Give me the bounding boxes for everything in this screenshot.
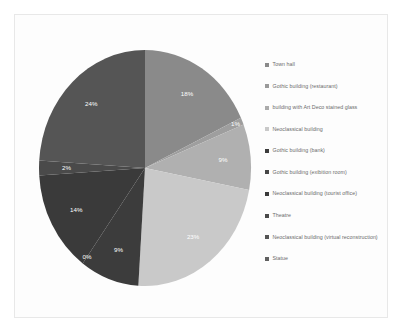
legend-item[interactable]: Gothic building (restaurant) xyxy=(265,83,385,90)
legend-item[interactable]: Gothic building (bank) xyxy=(265,147,385,154)
legend-swatch-icon xyxy=(265,235,269,239)
legend-item[interactable]: Neoclassical building (tourist office) xyxy=(265,190,385,197)
legend-item[interactable]: Gothic building (exibition room) xyxy=(265,169,385,176)
pie-slice-percent-label: 0% xyxy=(83,253,92,260)
legend-item-label: Gothic building (exibition room) xyxy=(273,169,347,176)
legend-swatch-icon xyxy=(265,106,269,110)
pie-slice-percent-label: 2% xyxy=(62,164,71,171)
pie-slice-percent-label: 18% xyxy=(181,90,194,97)
pie-slice-percent-label: 24% xyxy=(85,100,98,107)
pie-slice-percent-label: 1% xyxy=(231,120,240,127)
chart-figure-frame: 18%1%9%23%9%0%14%2%24% Town hallGothic b… xyxy=(14,14,388,318)
legend-item-label: Town hall xyxy=(273,61,295,68)
legend-item[interactable]: Neoclassical building xyxy=(265,126,385,133)
legend-swatch-icon xyxy=(265,127,269,131)
pie-slice-percent-label: 14% xyxy=(70,206,83,213)
legend-item[interactable]: Theatre xyxy=(265,212,385,219)
pie-slice-percent-label: 9% xyxy=(219,156,228,163)
chart-legend: Town hallGothic building (restaurant)bui… xyxy=(265,61,385,277)
legend-swatch-icon xyxy=(265,149,269,153)
legend-item[interactable]: Neoclassical building (virtual reconstru… xyxy=(265,234,385,241)
legend-item[interactable]: Town hall xyxy=(265,61,385,68)
pie-slice-percent-label: 9% xyxy=(114,246,123,253)
pie-plot-area: 18%1%9%23%9%0%14%2%24% xyxy=(23,21,253,313)
legend-swatch-icon xyxy=(265,170,269,174)
legend-swatch-icon xyxy=(265,257,269,261)
legend-item-label: Neoclassical building (virtual reconstru… xyxy=(273,234,378,241)
legend-swatch-icon xyxy=(265,63,269,67)
pie-svg: 18%1%9%23%9%0%14%2%24% xyxy=(37,49,253,287)
legend-item[interactable]: Statue xyxy=(265,255,385,262)
pie-chart: 18%1%9%23%9%0%14%2%24% xyxy=(37,49,253,287)
legend-item-label: Theatre xyxy=(273,212,292,219)
legend-item-label: Neoclassical building (tourist office) xyxy=(273,190,357,197)
legend-item-label: Neoclassical building xyxy=(273,126,323,133)
legend-item-label: Gothic building (restaurant) xyxy=(273,83,338,90)
legend-item-label: Gothic building (bank) xyxy=(273,147,325,154)
legend-swatch-icon xyxy=(265,214,269,218)
legend-item-label: Statue xyxy=(273,255,289,262)
legend-swatch-icon xyxy=(265,192,269,196)
legend-item[interactable]: building with Art Deco stained glass xyxy=(265,104,385,111)
legend-item-label: building with Art Deco stained glass xyxy=(273,104,358,111)
legend-swatch-icon xyxy=(265,84,269,88)
pie-slice[interactable] xyxy=(39,50,145,168)
pie-slice-percent-label: 23% xyxy=(187,233,200,240)
